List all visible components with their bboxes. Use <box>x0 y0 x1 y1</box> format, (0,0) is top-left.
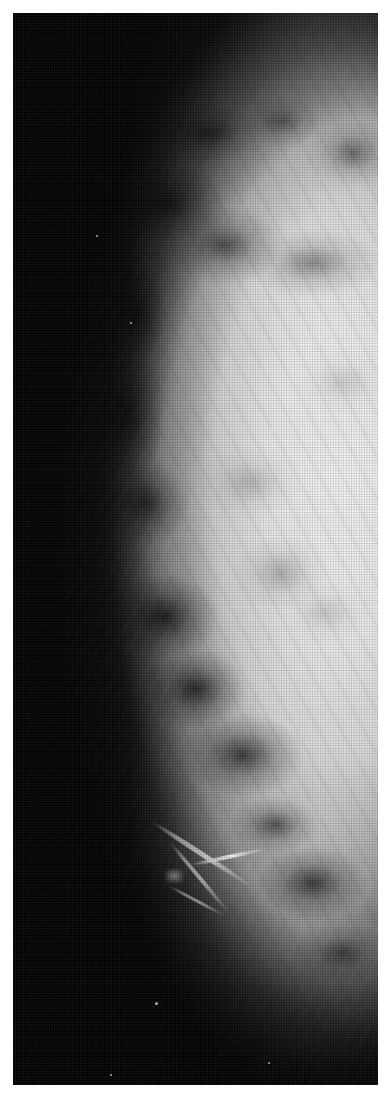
page-root <box>0 0 390 1104</box>
paper-grain-layer <box>13 13 378 1085</box>
caption <box>13 1088 378 1102</box>
mammogram-image <box>13 13 378 1085</box>
